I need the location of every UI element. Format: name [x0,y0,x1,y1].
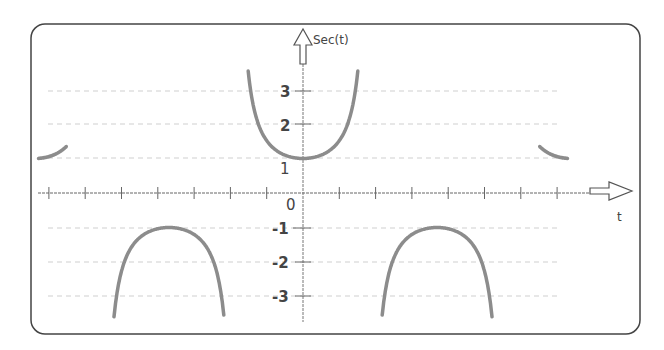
y-tick-label: 3 [280,83,290,101]
y-tick-label: 1 [280,160,290,178]
secant-branch [540,147,568,159]
y-axis-arrow-icon [294,29,312,64]
y-tick-label: -3 [272,288,289,306]
x-axis: t [38,182,632,224]
x-axis-arrow-icon [590,182,632,200]
secant-branch [39,147,67,159]
secant-chart: t Sec(t) 3 2 1 -1 -2 -3 0 [0,0,664,350]
secant-branch [114,228,224,317]
y-tick-label: -1 [272,220,289,238]
origin-label: 0 [286,196,296,214]
y-tick-label: -2 [272,254,289,272]
y-tick-labels: 3 2 1 -1 -2 -3 0 [272,83,296,306]
chart-frame [31,24,640,334]
y-tick-label: 2 [280,117,290,135]
y-axis: Sec(t) [293,29,349,322]
x-axis-label: t [617,210,622,224]
secant-branch [382,228,492,317]
y-axis-label: Sec(t) [313,33,349,47]
